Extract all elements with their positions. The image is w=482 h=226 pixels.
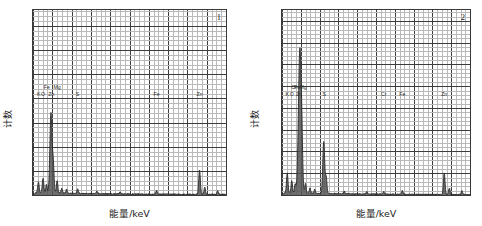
panel-index-1: 1	[217, 13, 221, 22]
element-peak-label: Zn	[296, 92, 302, 97]
y-axis-title-1: 计数	[4, 110, 13, 128]
element-peak-label: Mg	[54, 85, 61, 90]
figure-canvas: 计数 能量/keV KOFeZnMgSFeZn 1 05010015020025…	[0, 0, 482, 226]
element-peak-label: Mg	[299, 85, 306, 90]
element-peak-label: O	[290, 92, 294, 97]
x-axis-title-1: 能量/keV	[32, 209, 227, 219]
element-peak-label: K	[286, 92, 289, 97]
y-axis-title-2: 计数	[251, 110, 260, 128]
x-axis-title-2: 能量/keV	[281, 209, 471, 219]
element-peak-label: Zn	[441, 92, 447, 97]
element-peak-label: S	[323, 92, 326, 97]
spectrum-trace-1	[33, 10, 226, 195]
plot-area-2: KOCrFeZnMgSCrFeZn 2 05010015020025030035…	[281, 9, 471, 196]
element-peak-label: K	[37, 92, 40, 97]
element-peak-label: S	[76, 92, 79, 97]
element-peak-label: O	[41, 92, 45, 97]
element-peak-label: Fe	[153, 92, 159, 97]
element-peak-label: Zn	[48, 92, 54, 97]
element-peak-label: Cr	[381, 92, 386, 97]
element-peak-label: Zn	[197, 92, 203, 97]
plot-area-1: KOFeZnMgSFeZn 1 050100150200250300350 02…	[32, 9, 227, 196]
element-peak-label: Fe	[399, 92, 405, 97]
spectrum-panel-2: 计数 能量/keV KOCrFeZnMgSCrFeZn 2 0501001502…	[241, 0, 482, 226]
element-peak-label: Fe	[44, 85, 50, 90]
spectrum-trace-2	[282, 10, 470, 195]
panel-index-2: 2	[461, 13, 465, 22]
spectrum-panel-1: 计数 能量/keV KOFeZnMgSFeZn 1 05010015020025…	[0, 0, 241, 226]
